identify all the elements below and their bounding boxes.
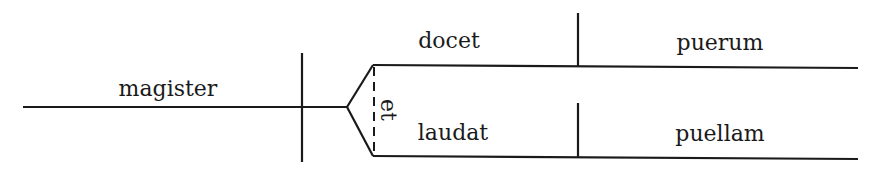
predicate-2-object: puellam [675, 121, 764, 146]
sentence-diagram: magister et docet puerum laudat puellam [0, 0, 878, 172]
predicate-1-baseline [373, 65, 858, 68]
predicate-1-verb: docet [418, 28, 480, 53]
predicate-1-object: puerum [677, 30, 764, 55]
conjunction-word: et [376, 99, 401, 121]
fork-lower-branch [347, 107, 373, 156]
fork-upper-branch [347, 65, 373, 107]
subject-word: magister [119, 76, 218, 101]
predicate-2-baseline [373, 156, 858, 159]
predicate-2-verb: laudat [418, 120, 489, 145]
